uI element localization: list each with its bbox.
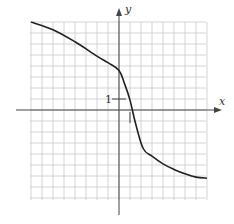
x-axis-label: x xyxy=(219,96,225,107)
axes xyxy=(16,8,222,215)
function-graph: y x 1 xyxy=(0,0,234,224)
graph-canvas xyxy=(0,0,234,224)
y-axis-label: y xyxy=(125,4,131,15)
y-axis-arrow-icon xyxy=(116,8,122,16)
y-unit-label: 1 xyxy=(105,94,112,105)
